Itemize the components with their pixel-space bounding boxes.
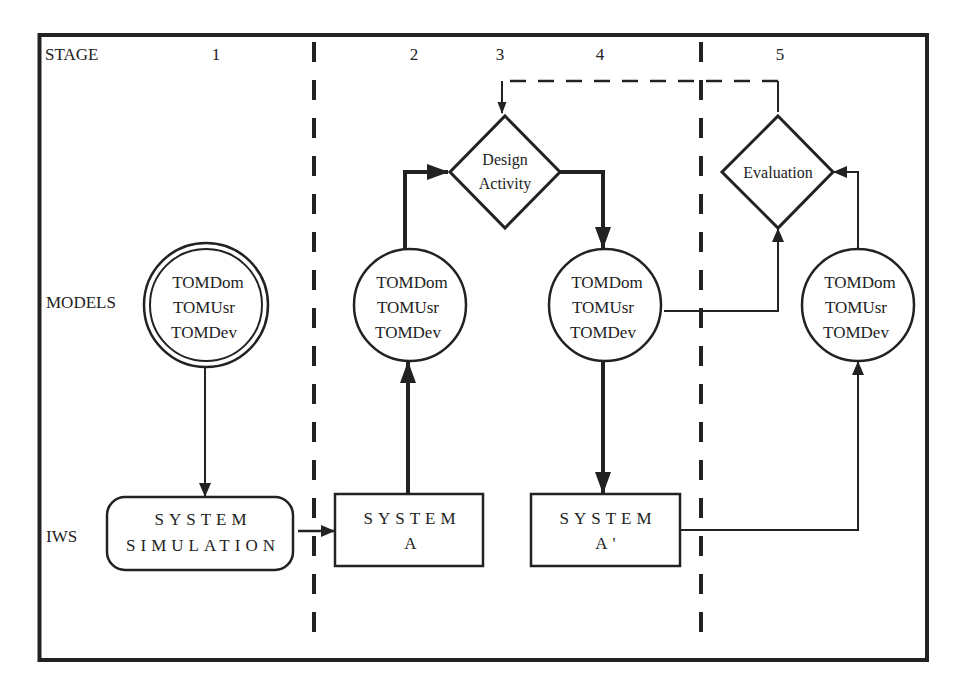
model-label-usr: TOMUsr (572, 298, 634, 317)
row-label-iws: IWS (46, 527, 77, 546)
simulation-label-1: SYSTEM (154, 510, 251, 529)
system-a-box (335, 494, 483, 566)
design-activity-label-2: Activity (479, 175, 531, 193)
model-label-dom: TOMDom (376, 273, 447, 292)
arrow-model5-to-evaluation (834, 172, 858, 249)
iws-system-a-prime[interactable]: SYSTEM A' (531, 494, 680, 566)
design-activity-diamond (450, 116, 560, 228)
system-a-prime-label-1: SYSTEM (559, 509, 656, 528)
model-node-stage-4[interactable]: TOMDom TOMUsr TOMDev (549, 249, 661, 361)
stage-number-1: 1 (212, 45, 221, 64)
model-label-dev: TOMDev (375, 323, 441, 342)
arrow-model2-to-design (405, 172, 448, 249)
model-label-usr: TOMUsr (825, 298, 887, 317)
system-a-prime-label-2: A' (595, 534, 620, 553)
arrow-design-to-model4 (560, 172, 603, 248)
model-node-stage-2[interactable]: TOMDom TOMUsr TOMDev (354, 249, 466, 361)
model-node-stage-1[interactable]: TOMDom TOMUsr TOMDev (144, 243, 268, 367)
model-label-dom: TOMDom (172, 273, 243, 292)
model-label-usr: TOMUsr (173, 298, 235, 317)
stage-number-4: 4 (596, 45, 605, 64)
iws-system-a[interactable]: SYSTEM A (335, 494, 483, 566)
evaluation-label: Evaluation (743, 164, 812, 181)
flow-diagram: STAGE MODELS IWS 1 2 3 4 5 Design Activi… (0, 0, 960, 692)
stage-number-3: 3 (496, 45, 505, 64)
stage-number-5: 5 (776, 45, 785, 64)
iws-system-simulation[interactable]: SYSTEM SIMULATION (107, 497, 293, 570)
simulation-box (107, 497, 293, 570)
system-a-label-2: A (404, 534, 421, 553)
design-activity-decision[interactable]: Design Activity (450, 116, 560, 228)
evaluation-decision[interactable]: Evaluation (722, 116, 833, 228)
row-label-models: MODELS (46, 293, 116, 312)
stage-number-2: 2 (410, 45, 419, 64)
model-label-dom: TOMDom (571, 273, 642, 292)
arrow-model4-to-evaluation (664, 229, 778, 311)
row-label-stage: STAGE (45, 45, 98, 64)
system-a-label-1: SYSTEM (363, 509, 460, 528)
model-label-dev: TOMDev (823, 323, 889, 342)
system-a-prime-box (531, 494, 680, 566)
model-label-dom: TOMDom (824, 273, 895, 292)
model-label-dev: TOMDev (171, 323, 237, 342)
arrow-system-a-prime-to-model5 (680, 362, 858, 530)
model-node-stage-5[interactable]: TOMDom TOMUsr TOMDev (802, 249, 914, 361)
design-activity-label-1: Design (482, 151, 527, 169)
model-label-dev: TOMDev (570, 323, 636, 342)
model-label-usr: TOMUsr (377, 298, 439, 317)
simulation-label-2: SIMULATION (126, 536, 280, 555)
